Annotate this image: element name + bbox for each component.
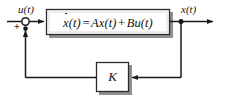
input-term: u(t)	[134, 16, 152, 30]
output-label: x(t)	[181, 4, 196, 15]
plus-sign: +	[117, 16, 127, 30]
plant-equation: x(t)=Ax(t)+Bu(t)	[49, 17, 167, 30]
state-term: x(t)	[99, 16, 117, 30]
x-dot-symbol: x	[63, 16, 69, 30]
equals-sign: =	[81, 16, 91, 30]
x-dot-term: x	[63, 17, 69, 30]
summing-junction[interactable]	[22, 18, 29, 25]
sum-sign-plus: +	[14, 22, 20, 32]
feedback-entry-dot	[23, 26, 28, 31]
state-feedback-block-diagram: u(t) + x(t) x(t)=Ax(t)+Bu(t) K	[0, 0, 225, 102]
input-label: u(t)	[18, 4, 34, 15]
x-dot-accent	[65, 13, 67, 15]
x-dot-arg: (t)	[69, 16, 81, 30]
matrix-a: A	[91, 16, 99, 30]
gain-block-label: K	[97, 70, 128, 83]
